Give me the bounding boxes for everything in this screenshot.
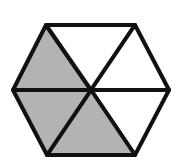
hexagon-fraction-diagram <box>0 0 186 165</box>
